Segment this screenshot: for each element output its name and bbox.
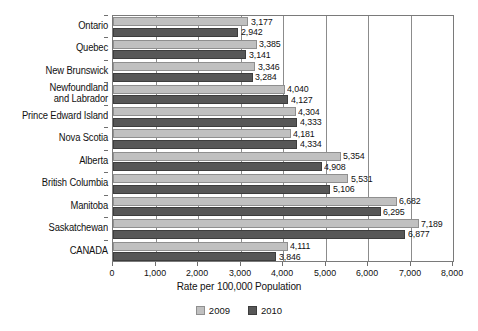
category-label-line: Newfoundland — [5, 83, 108, 94]
category-axis: OntarioQuebecNew BrunswickNewfoundlandan… — [0, 15, 108, 262]
x-axis-tick-label: 7,000 — [398, 267, 420, 278]
bar-2009 — [113, 40, 257, 49]
bar-2009 — [113, 174, 348, 183]
bar-2010 — [113, 95, 288, 104]
bar-2009 — [113, 17, 248, 26]
bar-group: 3,3853,141 — [113, 38, 453, 60]
x-axis: 01,0002,0003,0004,0005,0006,0007,0008,00… — [112, 262, 454, 282]
y-axis-tick — [104, 82, 108, 83]
category-label-line: Nova Scotia — [5, 133, 108, 144]
bar-value-label: 6,682 — [399, 196, 421, 206]
bar-group: 3,3463,284 — [113, 61, 453, 83]
x-axis-tick-label: 8,000 — [441, 267, 463, 278]
bar-value-label: 5,106 — [333, 184, 355, 194]
x-axis-tick-label: 2,000 — [186, 267, 208, 278]
x-axis-title: Rate per 100,000 Population — [0, 281, 478, 292]
bar-2010 — [113, 207, 381, 216]
category-label-newfoundland-and-labrador: Newfoundlandand Labrador — [5, 83, 108, 104]
bar-value-label: 4,334 — [300, 139, 322, 149]
category-label-saskatchewan: Saskatchewan — [5, 223, 108, 234]
x-axis-tick-label: 1,000 — [143, 267, 165, 278]
bar-group: 4,0404,127 — [113, 83, 453, 105]
legend-label: 2010 — [261, 305, 282, 316]
bar-value-label: 3,141 — [249, 50, 271, 60]
bar-2010 — [113, 140, 297, 149]
bar-value-label: 4,304 — [298, 107, 320, 117]
legend-swatch-2010 — [248, 306, 257, 315]
y-axis-tick — [104, 15, 108, 16]
category-label-line: British Columbia — [5, 178, 108, 189]
bar-value-label: 3,846 — [279, 252, 301, 262]
x-axis-tick-label: 0 — [110, 267, 115, 278]
x-axis-tick — [325, 262, 326, 266]
bar-group: 6,6826,295 — [113, 196, 453, 218]
bar-value-label: 4,127 — [291, 95, 313, 105]
bar-value-label: 4,333 — [300, 117, 322, 127]
category-label-british-columbia: British Columbia — [5, 178, 108, 189]
category-label-line: and Labrador — [5, 94, 108, 105]
bar-2010 — [113, 162, 322, 171]
category-label-prince-edward-island: Prince Edward Island — [5, 111, 108, 122]
bar-2010 — [113, 118, 297, 127]
category-label-alberta: Alberta — [5, 156, 108, 167]
category-label-line: Manitoba — [5, 201, 108, 212]
bar-2009 — [113, 197, 397, 206]
bar-value-label: 3,385 — [259, 39, 281, 49]
bar-2010 — [113, 50, 246, 59]
category-label-line: Ontario — [5, 21, 108, 32]
x-axis-tick — [112, 262, 113, 266]
category-label-nova-scotia: Nova Scotia — [5, 133, 108, 144]
bar-value-label: 7,189 — [421, 219, 443, 229]
x-axis-tick — [367, 262, 368, 266]
bar-value-label: 3,284 — [255, 72, 277, 82]
y-axis-tick — [104, 240, 108, 241]
x-axis-tick-label: 3,000 — [228, 267, 250, 278]
legend-item-2009[interactable]: 2009 — [196, 305, 230, 316]
x-axis-tick — [155, 262, 156, 266]
category-label-line: Quebec — [5, 43, 108, 54]
legend-label: 2009 — [209, 305, 230, 316]
y-axis-tick — [104, 217, 108, 218]
y-axis-tick — [104, 105, 108, 106]
bar-value-label: 4,181 — [293, 129, 315, 139]
bar-group: 4,1814,334 — [113, 128, 453, 150]
y-axis-tick — [104, 150, 108, 151]
category-label-ontario: Ontario — [5, 21, 108, 32]
bar-value-label: 4,908 — [324, 162, 346, 172]
bar-value-label: 4,111 — [290, 241, 310, 251]
plot-area: 3,1772,9423,3853,1413,3463,2844,0404,127… — [112, 15, 454, 262]
bar-2010 — [113, 73, 253, 82]
x-axis-tick-label: 5,000 — [313, 267, 335, 278]
bar-value-label: 6,295 — [383, 207, 405, 217]
bar-value-label: 5,354 — [343, 151, 365, 161]
category-label-line: New Brunswick — [5, 66, 108, 77]
bar-2009 — [113, 129, 291, 138]
category-label-line: Saskatchewan — [5, 223, 108, 234]
legend-item-2010[interactable]: 2010 — [248, 305, 282, 316]
category-label-new-brunswick: New Brunswick — [5, 66, 108, 77]
y-axis-tick — [104, 127, 108, 128]
x-axis-tick — [410, 262, 411, 266]
x-axis-tick — [197, 262, 198, 266]
category-label-line: Alberta — [5, 156, 108, 167]
category-label-canada: CANADA — [5, 246, 108, 257]
bar-2009 — [113, 85, 285, 94]
bar-value-label: 5,531 — [351, 174, 373, 184]
bar-group: 4,1113,846 — [113, 241, 453, 263]
x-axis-tick — [282, 262, 283, 266]
bar-group: 3,1772,942 — [113, 16, 453, 38]
bar-2009 — [113, 62, 255, 71]
y-axis-tick — [104, 172, 108, 173]
bar-value-label: 4,040 — [287, 84, 309, 94]
bar-chart-figure: OntarioQuebecNew BrunswickNewfoundlandan… — [0, 0, 478, 331]
x-axis-tick — [240, 262, 241, 266]
category-label-manitoba: Manitoba — [5, 201, 108, 212]
bar-2009 — [113, 242, 288, 251]
y-axis-tick — [104, 60, 108, 61]
y-axis-tick — [104, 195, 108, 196]
bar-2010 — [113, 185, 330, 194]
chart-legend: 20092010 — [0, 305, 478, 316]
bar-value-label: 6,877 — [408, 229, 430, 239]
bar-value-label: 2,942 — [241, 27, 263, 37]
bar-group: 7,1896,877 — [113, 218, 453, 240]
